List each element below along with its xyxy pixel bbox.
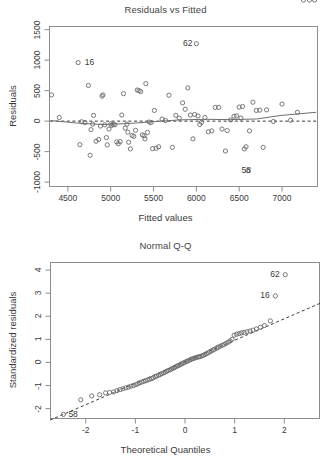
outlier-point-label: 58 <box>242 165 251 175</box>
y-tick-label: 3 <box>33 291 43 296</box>
x-tick-label: 6000 <box>187 193 206 203</box>
lowess-smoother-line <box>51 112 317 124</box>
x-tick-label: 6500 <box>230 193 249 203</box>
y-tick-label: 2 <box>33 314 43 319</box>
y-tick-label: 4 <box>33 268 43 273</box>
data-points-qq <box>61 273 287 417</box>
x-tick-label: 1 <box>232 425 237 435</box>
y-tick-label: 1500 <box>32 20 42 39</box>
y-tick-label: 1000 <box>32 51 42 70</box>
y-tick-label: 1 <box>33 337 43 342</box>
x-tick-label: 5000 <box>101 193 120 203</box>
panel-residuals-vs-fitted: Residuals vs Fitted 45005000550060006500… <box>0 0 331 235</box>
x-tick-label: -1 <box>132 425 140 435</box>
x-tick-label: 2 <box>282 425 287 435</box>
y-axis-title: Residuals <box>7 85 18 127</box>
y-tick-label: 500 <box>32 84 42 98</box>
y-tick-label: -1 <box>33 382 43 390</box>
y-tick-label: -1000 <box>32 171 42 193</box>
outlier-point-label: 16 <box>260 290 269 300</box>
y-axis-title: Standardized residuals <box>7 292 18 389</box>
y-tick-label: -2 <box>33 405 43 413</box>
x-axis-title: Theoretical Quantiles <box>0 444 331 455</box>
outlier-point-label: 62 <box>270 269 279 279</box>
data-points-residuals <box>49 0 316 173</box>
x-tick-label: 0 <box>183 425 188 435</box>
y-tick-label: -500 <box>32 143 42 160</box>
outlier-point-label: 16 <box>85 57 94 67</box>
y-tick-label: 0 <box>32 119 42 124</box>
axis-ticks-qq <box>46 270 285 423</box>
outlier-point-label: 62 <box>183 38 192 48</box>
x-tick-label: 5500 <box>144 193 163 203</box>
x-axis-title: Fitted values <box>0 212 331 223</box>
y-tick-label: 0 <box>33 360 43 365</box>
x-tick-label: 4500 <box>58 193 77 203</box>
outlier-point-label: 58 <box>68 409 77 419</box>
panel-normal-qq: Normal Q-Q -2-1012 -2-101234 621658 Theo… <box>0 235 331 469</box>
x-tick-label: 7000 <box>273 193 292 203</box>
x-tick-label: -2 <box>82 425 90 435</box>
